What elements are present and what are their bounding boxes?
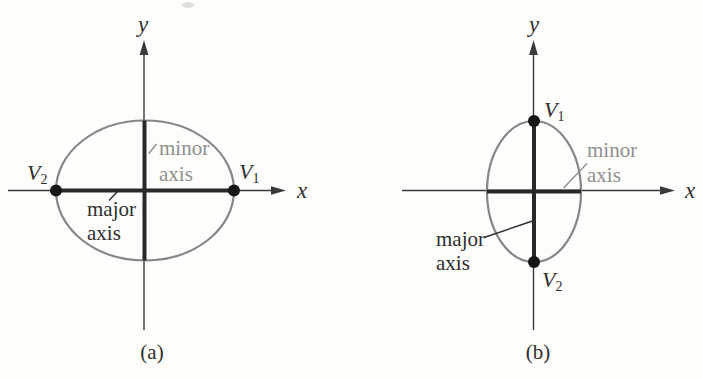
panel-b-x-axis-arrow-icon [660,186,675,195]
panel-b-vertex-bottom-dot [528,256,540,268]
panel-a-x-axis-label: x [297,178,307,203]
panel-b-minor-axis-label-line1: minor [587,138,637,163]
panel-a-y-axis-label: y [138,12,148,37]
panel-a-x-axis-arrow-icon [271,186,286,195]
panel-b-y-axis-arrow-icon [529,40,538,55]
panel-a-v1-letter: V [239,159,252,184]
panel-a-minor-axis-label: minor axis [159,135,209,187]
diagram-geometry [0,0,703,379]
panel-b-vertex-top-dot [528,115,540,127]
panel-b-caption: (b) [526,340,551,365]
panel-b-minor-axis-label-line2: axis [587,163,637,188]
panel-a-minor-axis-label-line1: minor [159,135,209,161]
panel-a-minor-leader-line [149,144,157,154]
panel-b-major-axis-label-line1: major [436,227,485,251]
panel-b-major-axis-label: major axis [436,227,485,275]
panel-b-v2-letter: V [542,267,555,292]
panel-a-major-axis-label-line2: axis [87,221,136,245]
panel-a-vertex-left-dot [50,185,62,197]
panel-a-minor-axis-label-line2: axis [159,161,209,187]
panel-a-y-axis-arrow-icon [140,40,149,55]
panel-b-v1-subscript: 1 [557,109,564,124]
panel-a-caption: (a) [140,340,163,365]
panel-b-vertex-v2-label: V2 [542,267,562,299]
panel-b-major-axis-label-line2: axis [436,251,485,275]
panel-b-x-axis-label: x [685,178,695,203]
panel-a-v2-letter: V [27,160,40,185]
panel-b-minor-axis-label: minor axis [587,138,637,188]
scan-smudge [182,2,194,8]
panel-b-v1-letter: V [544,97,557,122]
panel-a-v1-subscript: 1 [252,171,259,186]
panel-b-minor-leader-line [564,164,588,189]
panel-a-vertex-v2-label: V2 [27,160,47,192]
panel-a-v2-subscript: 2 [40,172,47,187]
panel-a-major-axis-label-line1: major [87,197,136,221]
panel-a-vertex-v1-label: V1 [239,159,259,191]
ellipse-axes-figure: y x V2 V1 minor axis major axis (a) y x … [0,0,703,379]
panel-a-major-axis-label: major axis [87,197,136,245]
panel-b-v2-subscript: 2 [555,279,562,294]
panel-b-y-axis-label: y [529,12,539,37]
panel-b-vertex-v1-label: V1 [544,97,564,129]
